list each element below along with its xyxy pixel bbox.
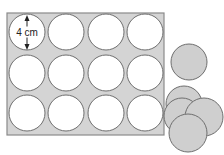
single-disc [171,44,207,80]
hole-r3-c4 [127,95,163,131]
hole-r3-c2 [48,95,84,131]
diagram-canvas: 4 cm [0,0,224,155]
dimension-label: 4 cm [16,27,38,38]
hole-r2-c4 [127,55,163,91]
hole-r1-c4 [127,14,163,50]
stacked-disc-4 [169,114,207,152]
hole-r1-c3 [88,14,124,50]
hole-r2-c3 [88,55,124,91]
hole-r3-c1 [9,95,45,131]
hole-r2-c1 [9,55,45,91]
hole-r2-c2 [48,55,84,91]
stacked-discs [164,86,223,152]
hole-r3-c3 [88,95,124,131]
hole-r1-c2 [48,14,84,50]
